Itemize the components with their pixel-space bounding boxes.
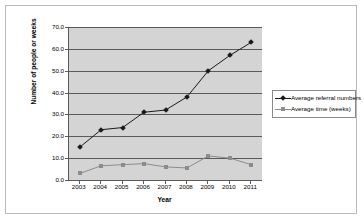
data-point-marker <box>121 163 125 167</box>
y-axis-tick-label: 50.0 <box>24 68 64 74</box>
y-axis-tick-label: 0.0 <box>24 177 64 183</box>
data-point-marker <box>78 171 82 175</box>
y-axis-tick-label: 20.0 <box>24 133 64 139</box>
legend-marker-icon <box>275 94 291 103</box>
data-point-marker <box>99 164 103 168</box>
x-axis-title: Year <box>68 196 261 203</box>
data-point-marker <box>249 163 253 167</box>
series-lines <box>69 27 262 180</box>
y-axis-tick-label: 10.0 <box>24 155 64 161</box>
legend-marker-icon <box>275 105 291 114</box>
y-axis-tick-label: 70.0 <box>24 24 64 30</box>
y-axis-tick-label: 30.0 <box>24 111 64 117</box>
x-axis-tick-mark <box>186 181 187 184</box>
data-point-marker <box>228 156 232 160</box>
plot-area <box>68 27 262 181</box>
data-point-marker <box>142 162 146 166</box>
legend-label: Average time (weeks) <box>291 106 351 112</box>
y-axis-tick-label: 60.0 <box>24 46 64 52</box>
chart-figure: Number of people or weeks 0.010.020.030.… <box>5 5 357 214</box>
x-axis-tick-mark <box>79 181 80 184</box>
legend-item: Average referral numbers <box>275 93 354 104</box>
data-point-marker <box>164 165 168 169</box>
y-axis-tick-label: 40.0 <box>24 90 64 96</box>
x-axis-tick-mark <box>100 181 101 184</box>
legend-label: Average referral numbers <box>291 95 361 101</box>
data-point-marker <box>206 154 210 158</box>
chart-legend: Average referral numbersAverage time (we… <box>272 90 356 118</box>
x-axis-tick-mark <box>229 181 230 184</box>
series-line <box>80 42 252 147</box>
data-point-marker <box>185 166 189 170</box>
x-axis-tick-mark <box>207 181 208 184</box>
x-axis-tick-mark <box>165 181 166 184</box>
x-axis-tick-mark <box>143 181 144 184</box>
x-axis-tick-mark <box>250 181 251 184</box>
x-axis-tick-mark <box>122 181 123 184</box>
x-axis-tick-label: 2011 <box>235 184 265 190</box>
legend-item: Average time (weeks) <box>275 104 354 115</box>
